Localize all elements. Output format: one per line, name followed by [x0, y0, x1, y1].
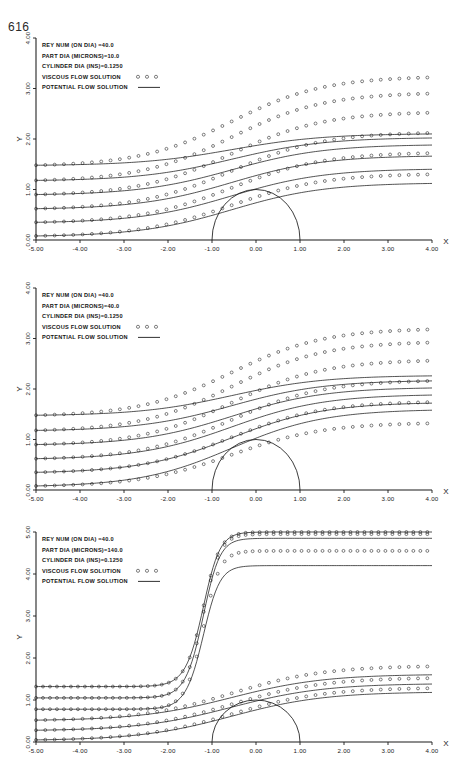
- viscous-marker: [240, 148, 243, 151]
- x-tick-label: 2.00: [338, 245, 351, 252]
- viscous-marker: [193, 418, 196, 421]
- chart-3: -5.00-4.00-3.00-2.00-1.000.001.002.003.0…: [0, 522, 456, 762]
- viscous-marker: [351, 668, 354, 671]
- viscous-marker: [314, 390, 317, 393]
- viscous-marker: [286, 96, 289, 99]
- viscous-marker: [202, 181, 205, 184]
- viscous-marker: [258, 123, 261, 126]
- viscous-marker: [267, 354, 270, 357]
- viscous-marker: [118, 202, 121, 205]
- viscous-marker: [193, 168, 196, 171]
- viscous-marker: [249, 393, 252, 396]
- viscous-marker: [193, 702, 196, 705]
- viscous-marker: [361, 176, 364, 179]
- viscous-marker: [174, 144, 177, 147]
- viscous-marker: [295, 434, 298, 437]
- viscous-marker: [277, 400, 280, 403]
- viscous-marker: [109, 716, 112, 719]
- viscous-marker: [128, 156, 131, 159]
- viscous-marker: [417, 93, 420, 96]
- viscous-marker: [277, 364, 280, 367]
- viscous-marker: [323, 388, 326, 391]
- viscous-marker: [426, 549, 429, 552]
- viscous-marker: [109, 438, 112, 441]
- viscous-marker: [305, 90, 308, 93]
- viscous-marker: [398, 153, 401, 156]
- x-tick-label: -2.00: [160, 245, 175, 252]
- viscous-marker: [379, 678, 382, 681]
- viscous-marker: [279, 549, 282, 552]
- viscous-marker: [100, 425, 103, 428]
- viscous-marker: [156, 475, 159, 478]
- viscous-marker: [249, 376, 252, 379]
- y-tick-label: 5.00: [24, 525, 31, 538]
- viscous-marker: [165, 427, 168, 430]
- viscous-marker: [389, 113, 392, 116]
- legend-viscous-marker: [145, 569, 148, 572]
- viscous-marker: [389, 343, 392, 346]
- viscous-marker: [351, 116, 354, 119]
- viscous-marker: [156, 150, 159, 153]
- viscous-marker: [342, 157, 345, 160]
- viscous-marker: [212, 161, 215, 164]
- chart-panel-1: -5.00-4.00-3.00-2.00-1.000.001.002.003.0…: [0, 28, 456, 260]
- x-tick-label: -1.00: [204, 495, 219, 502]
- viscous-marker: [351, 680, 354, 683]
- legend: REY NUM (ON DIA) =40.0PART DIA (MICRONS)…: [42, 292, 160, 340]
- viscous-marker: [314, 181, 317, 184]
- viscous-marker: [221, 190, 224, 193]
- viscous-marker: [286, 361, 289, 364]
- viscous-flow-streamlines: [35, 76, 429, 237]
- viscous-marker: [407, 329, 410, 332]
- legend-label: PART DIA (MICRONS)=40.0: [42, 303, 119, 309]
- viscous-marker: [286, 378, 289, 381]
- x-tick-label: -1.00: [204, 245, 219, 252]
- viscous-marker: [184, 715, 187, 718]
- viscous-marker: [407, 173, 410, 176]
- viscous-marker: [370, 79, 373, 82]
- viscous-marker: [407, 93, 410, 96]
- viscous-marker: [277, 350, 280, 353]
- viscous-marker: [305, 673, 308, 676]
- viscous-marker: [333, 138, 336, 141]
- viscous-marker: [370, 362, 373, 365]
- viscous-marker: [286, 688, 289, 691]
- viscous-marker: [361, 96, 364, 99]
- viscous-marker: [212, 708, 215, 711]
- viscous-marker: [174, 425, 177, 428]
- viscous-marker: [137, 199, 140, 202]
- viscous-marker: [118, 230, 121, 233]
- viscous-marker: [351, 136, 354, 139]
- streamline-potential: [36, 532, 432, 687]
- viscous-marker: [417, 152, 420, 155]
- viscous-marker: [407, 342, 410, 345]
- viscous-marker: [277, 381, 280, 384]
- viscous-marker: [90, 455, 93, 458]
- viscous-marker: [426, 665, 429, 668]
- viscous-marker: [384, 549, 387, 552]
- viscous-marker: [258, 684, 261, 687]
- viscous-marker: [146, 432, 149, 435]
- viscous-marker: [323, 368, 326, 371]
- viscous-marker: [342, 426, 345, 429]
- viscous-marker: [90, 176, 93, 179]
- viscous-marker: [333, 367, 336, 370]
- viscous-marker: [333, 84, 336, 87]
- legend-label: REY NUM (ON DIA) =40.0: [42, 536, 114, 542]
- viscous-marker: [349, 549, 352, 552]
- viscous-marker: [342, 82, 345, 85]
- viscous-marker: [174, 206, 177, 209]
- viscous-marker: [81, 205, 84, 208]
- viscous-marker: [202, 197, 205, 200]
- viscous-marker: [379, 424, 382, 427]
- y-tick-label: 1.00: [24, 433, 31, 446]
- viscous-marker: [426, 328, 429, 331]
- viscous-marker: [249, 362, 252, 365]
- viscous-marker: [146, 152, 149, 155]
- viscous-marker: [249, 127, 252, 130]
- viscous-marker: [277, 690, 280, 693]
- x-tick-label: 0.00: [250, 245, 263, 252]
- viscous-marker: [128, 201, 131, 204]
- viscous-marker: [370, 175, 373, 178]
- viscous-marker: [379, 78, 382, 81]
